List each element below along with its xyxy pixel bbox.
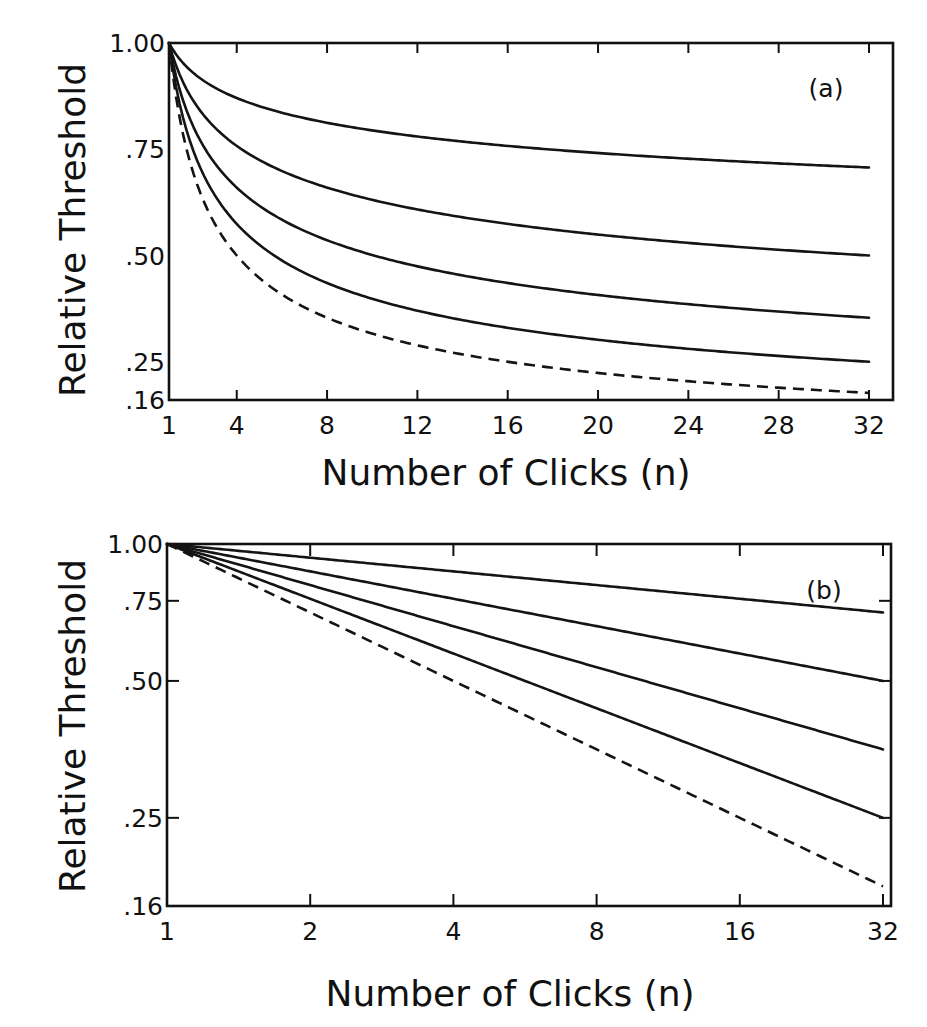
x-tick-label-b: 2 — [302, 917, 318, 946]
series-line-b-4 — [167, 544, 883, 818]
x-tick-label-a: 1 — [161, 411, 177, 440]
series-line-b-2 — [167, 544, 883, 681]
plot-frame-b — [167, 544, 891, 906]
series-line-a-5 — [169, 43, 869, 393]
x-axis-title-b: Number of Clicks (n) — [325, 973, 694, 1014]
panel-b: Relative Threshold Number of Clicks (n) … — [52, 530, 899, 1014]
panel-label-b: (b) — [806, 576, 841, 605]
y-tick-label-b: .50 — [123, 667, 163, 696]
y-axis-title-b: Relative Threshold — [52, 559, 93, 893]
x-tick-label-a: 24 — [672, 411, 704, 440]
panel-a: Relative Threshold Number of Clicks (n) … — [52, 29, 893, 493]
panel-label-a: (a) — [809, 74, 844, 103]
x-axis-title-a: Number of Clicks (n) — [321, 452, 690, 493]
plot-frame-a — [169, 43, 893, 400]
x-tick-label-a: 32 — [853, 411, 885, 440]
y-tick-label-b: .25 — [123, 804, 163, 833]
y-axis-title-a: Relative Threshold — [52, 63, 93, 397]
series-line-b-1 — [167, 544, 883, 612]
x-tick-label-a: 28 — [763, 411, 795, 440]
x-tick-label-a: 8 — [319, 411, 335, 440]
series-line-a-1 — [169, 43, 869, 167]
x-tick-label-a: 4 — [229, 411, 245, 440]
series-line-a-2 — [169, 43, 869, 256]
x-tick-label-b: 8 — [589, 917, 605, 946]
plot-area-b: 124816321.00.75.50.25.16 — [107, 530, 899, 946]
x-tick-label-b: 1 — [159, 917, 175, 946]
y-tick-label-a: .75 — [125, 135, 165, 164]
y-tick-label-b: .75 — [123, 587, 163, 616]
x-tick-label-a: 16 — [492, 411, 524, 440]
plot-area-a: 1481216202428321.00.75.50.25.16 — [109, 29, 893, 440]
y-tick-label-a: 1.00 — [109, 29, 165, 58]
y-tick-label-a: .25 — [125, 348, 165, 377]
y-tick-label-a: .50 — [125, 242, 165, 271]
x-tick-label-b: 4 — [445, 917, 461, 946]
x-tick-label-b: 32 — [867, 917, 899, 946]
x-tick-label-a: 12 — [401, 411, 433, 440]
series-line-a-3 — [169, 43, 869, 318]
y-tick-label-b: .16 — [123, 892, 163, 921]
series-line-b-5 — [167, 544, 883, 886]
series-line-b-3 — [167, 544, 883, 749]
x-tick-label-a: 20 — [582, 411, 614, 440]
y-tick-label-b: 1.00 — [107, 530, 163, 559]
y-tick-label-a: .16 — [125, 386, 165, 415]
figure: Relative Threshold Number of Clicks (n) … — [0, 0, 927, 1027]
series-line-a-4 — [169, 43, 869, 362]
x-tick-label-b: 16 — [724, 917, 756, 946]
